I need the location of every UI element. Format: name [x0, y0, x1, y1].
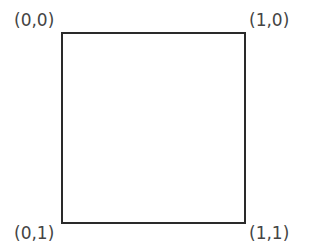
corner-label-bottom-left: (0,1): [14, 225, 54, 242]
unit-square: [61, 32, 246, 224]
corner-label-top-left: (0,0): [14, 12, 54, 29]
corner-label-bottom-right: (1,1): [249, 225, 289, 242]
corner-label-top-right: (1,0): [249, 12, 289, 29]
